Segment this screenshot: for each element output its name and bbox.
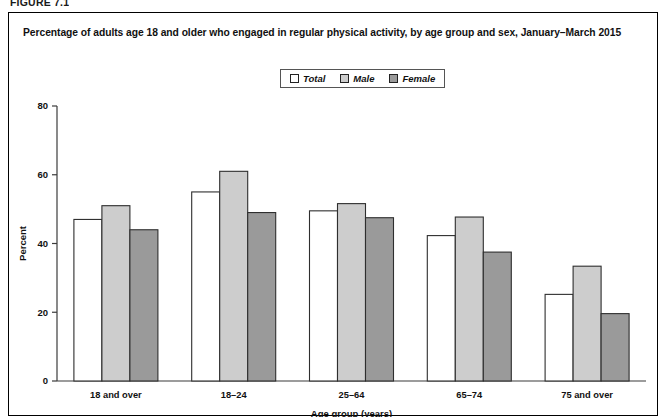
x-tick-label: 65–74 [456,390,483,400]
chart-plot-area: 020406080 18 and over18–2425–6465–7475 a… [9,13,659,417]
bar-male-4 [573,266,601,381]
y-axis-title: Percent [17,225,28,261]
bar-female-1 [248,213,276,381]
y-tick-label: 0 [43,375,48,386]
y-axis: 020406080 [37,100,57,386]
x-tick-label: 18–24 [221,390,248,400]
bar-male-3 [455,217,483,381]
bar-female-3 [483,252,511,381]
bar-male-0 [102,206,130,381]
bar-male-2 [338,204,366,381]
figure-panel: Percentage of adults age 18 and older wh… [8,12,658,416]
x-tick-label: 18 and over [90,390,142,400]
bar-total-1 [192,192,220,381]
x-tick-label: 25–64 [339,390,366,400]
bar-total-0 [74,219,102,381]
bar-female-4 [601,314,629,381]
bar-female-0 [130,230,158,381]
bar-chart-svg: 020406080 18 and over18–2425–6465–7475 a… [9,13,659,417]
y-tick-label: 80 [37,100,48,111]
bar-total-4 [545,294,573,381]
figure-number: FIGURE 7.1 [10,0,69,7]
x-axis-category-labels: 18 and over18–2425–6465–7475 and over [90,390,613,400]
bar-total-2 [310,211,338,381]
bar-series-group [74,171,629,381]
y-tick-label: 60 [37,169,48,180]
bar-total-3 [427,236,455,381]
y-tick-label: 40 [37,238,48,249]
x-tick-label: 75 and over [561,390,613,400]
y-tick-label: 20 [37,307,48,318]
bar-male-1 [220,171,248,381]
bar-female-2 [366,218,394,381]
x-axis-title: Age group (years) [311,408,392,417]
